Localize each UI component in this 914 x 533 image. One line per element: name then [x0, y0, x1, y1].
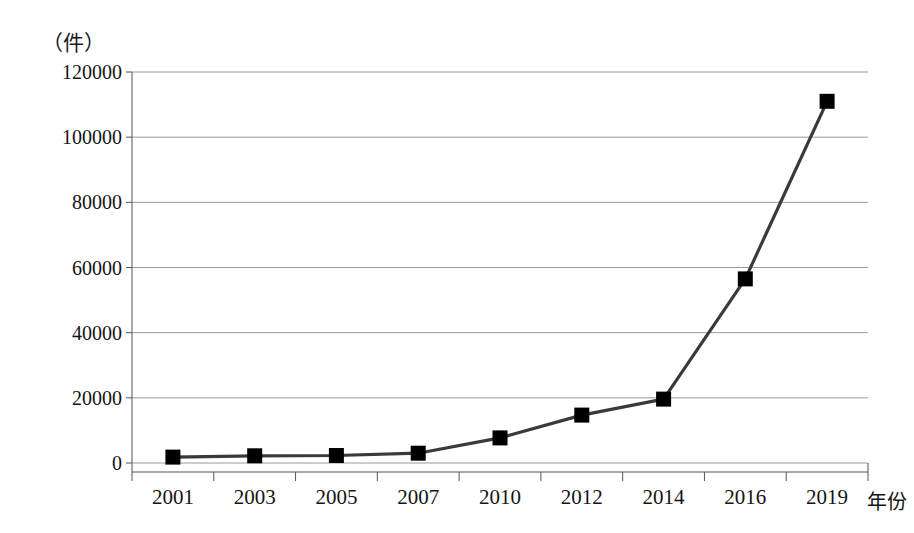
plot-area	[0, 0, 914, 533]
data-point-marker[interactable]	[738, 271, 753, 286]
data-line	[173, 101, 827, 457]
data-point-marker[interactable]	[574, 408, 589, 423]
x-axis-title: 年份	[867, 486, 907, 515]
data-point-marker[interactable]	[247, 448, 262, 463]
data-point-marker[interactable]	[329, 448, 344, 463]
data-point-marker[interactable]	[493, 430, 508, 445]
data-point-marker[interactable]	[656, 392, 671, 407]
line-chart: （件） 020000400006000080000100000120000 20…	[0, 0, 914, 533]
data-point-marker[interactable]	[820, 94, 835, 109]
data-point-marker[interactable]	[411, 446, 426, 461]
data-point-marker[interactable]	[165, 450, 180, 465]
